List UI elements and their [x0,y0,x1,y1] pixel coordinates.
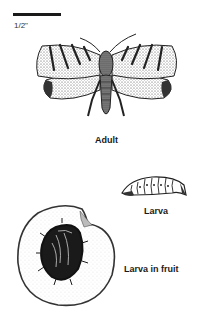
adult-label: Adult [95,135,118,145]
larva-in-fruit-label: Larva in fruit [124,264,179,274]
larva-label: Larva [144,206,168,216]
scale-bar-label: 1/2" [14,21,28,30]
scale-bar [13,13,61,16]
fruit-cross-section-illustration [12,203,120,311]
larva-illustration [120,173,190,199]
adult-moth-illustration [28,30,188,130]
